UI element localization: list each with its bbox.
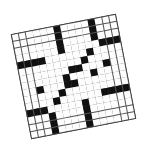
- crossword-grid[interactable]: [11, 14, 136, 139]
- grid-cell[interactable]: [127, 112, 135, 120]
